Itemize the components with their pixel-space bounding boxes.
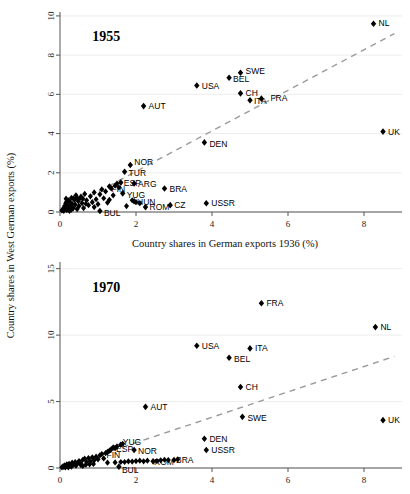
- point-label-cz: CZ: [174, 200, 185, 210]
- point-label-swe: SWE: [247, 413, 267, 423]
- data-point-bel: [226, 74, 231, 81]
- point-label-arg: ARG: [138, 179, 156, 189]
- point-label-ita: ITA: [255, 343, 268, 353]
- data-point-usa: [194, 82, 199, 89]
- point-label-nl: NL: [380, 322, 391, 332]
- data-point-bra: [162, 185, 167, 192]
- scatter-panel-1955: 024681002468NLSWEBELUSACHITAFRAAUTUKDENN…: [18, 0, 410, 238]
- data-point-ussr: [204, 447, 209, 454]
- point-label-fin: FIN: [111, 184, 125, 194]
- figure-container: Country shares in West German exports (%…: [0, 0, 410, 494]
- point-label-ussr: USSR: [211, 198, 235, 208]
- data-point: [141, 458, 146, 464]
- point-label-bel: BEL: [233, 74, 249, 84]
- data-point-uk: [380, 417, 385, 424]
- data-point-aut: [141, 103, 146, 110]
- point-label-usa: USA: [202, 81, 220, 91]
- x-axis-tick-label: 0: [58, 475, 63, 485]
- point-label-nor: NOR: [134, 157, 153, 167]
- x-axis-tick-label: 8: [362, 475, 367, 485]
- point-label-fin: FIN: [107, 450, 121, 460]
- data-point-swe: [240, 414, 245, 421]
- x-axis-tick-label: 4: [210, 475, 215, 485]
- data-point-ch: [238, 90, 243, 97]
- x-axis-tick-label: 6: [286, 475, 291, 485]
- data-point: [124, 203, 129, 209]
- point-label-uk: UK: [388, 415, 400, 425]
- y-axis-tick-label: 0: [46, 465, 56, 470]
- y-axis-tick-label: 4: [46, 131, 56, 136]
- gridlines-group: [60, 269, 402, 468]
- y-axis-tick-label: 2: [46, 171, 56, 176]
- data-point-den: [202, 435, 207, 442]
- x-axis-tick-label: 8: [362, 219, 367, 229]
- x-axis-tick-label: 2: [134, 219, 139, 229]
- point-label-bul: BUL: [122, 465, 139, 475]
- point-label-bra: BRA: [170, 184, 188, 194]
- year-annotation: 1970: [92, 280, 120, 295]
- point-label-ch: CH: [246, 382, 258, 392]
- point-label-aut: AUT: [151, 402, 168, 412]
- point-label-nor: NOR: [138, 446, 157, 456]
- x-axis-tick-label: 4: [210, 219, 215, 229]
- x-axis-tick-label: 6: [286, 219, 291, 229]
- data-points-group: [59, 20, 385, 214]
- y-axis-label-container: Country shares in West German exports (%…: [0, 0, 20, 494]
- data-point-labels-group: FRANLUSAITABELCHAUTSWEUKDENUSSRYUGNORESP…: [107, 298, 401, 474]
- point-label-ussr: USSR: [211, 445, 235, 455]
- x-axis-tick-label: 0: [58, 219, 63, 229]
- point-label-nl: NL: [379, 18, 390, 28]
- year-annotation: 1955: [92, 29, 120, 44]
- data-point: [113, 459, 118, 465]
- x-axis-tick-label: 2: [134, 475, 139, 485]
- point-label-rom: ROM: [154, 457, 174, 467]
- point-label-uk: UK: [388, 127, 400, 137]
- x-axis-label: Country shares in German exports 1936 (%…: [60, 238, 390, 249]
- data-point: [105, 460, 110, 466]
- scatter-plot-1970-svg: 05101502468FRANLUSAITABELCHAUTSWEUKDENUS…: [18, 250, 410, 494]
- y-axis-tick-label: 0: [46, 209, 56, 214]
- point-label-den: DEN: [209, 434, 227, 444]
- scatter-plot-1955-svg: 024681002468NLSWEBELUSACHITAFRAAUTUKDENN…: [18, 0, 410, 238]
- y-axis-tick-label: 8: [46, 52, 56, 57]
- point-label-den: DEN: [209, 139, 227, 149]
- point-label-fra: FRA: [270, 93, 287, 103]
- point-label-bel: BEL: [234, 354, 250, 364]
- data-point: [101, 195, 106, 201]
- point-label-bra: BRA: [176, 455, 194, 465]
- data-point-bel: [226, 354, 231, 361]
- point-label-usa: USA: [202, 341, 220, 351]
- data-point-usa: [194, 342, 199, 349]
- data-point-aut: [143, 404, 148, 411]
- y-axis-tick-label: 5: [46, 399, 56, 404]
- y-axis-label: Country shares in West German exports (%…: [5, 86, 16, 406]
- point-label-aut: AUT: [149, 101, 166, 111]
- data-point: [145, 458, 150, 464]
- point-label-fra: FRA: [266, 298, 283, 308]
- data-point-labels-group: NLSWEBELUSACHITAFRAAUTUKDENNORTURESPARGF…: [104, 18, 400, 218]
- data-point-ussr: [204, 200, 209, 207]
- data-point-den: [202, 139, 207, 146]
- y-axis-tick-label: 10: [46, 330, 56, 340]
- y-axis-tick-label: 10: [46, 11, 56, 21]
- data-point-nl: [373, 324, 378, 331]
- data-point-tur: [122, 169, 127, 176]
- y-axis-tick-label: 6: [46, 92, 56, 97]
- data-point-fra: [259, 300, 264, 307]
- scatter-panel-1970: 05101502468FRANLUSAITABELCHAUTSWEUKDENUS…: [18, 250, 410, 494]
- point-label-ita: ITA: [254, 96, 267, 106]
- data-point-ch: [238, 384, 243, 391]
- point-label-bul: BUL: [104, 208, 121, 218]
- data-point-ita: [247, 345, 252, 352]
- data-point-bul: [97, 208, 102, 215]
- data-point: [137, 458, 142, 464]
- point-label-tur: TUR: [129, 168, 146, 178]
- point-label-rom: ROM: [150, 202, 170, 212]
- y-axis-tick-label: 15: [46, 264, 56, 274]
- data-point-nl: [371, 20, 376, 27]
